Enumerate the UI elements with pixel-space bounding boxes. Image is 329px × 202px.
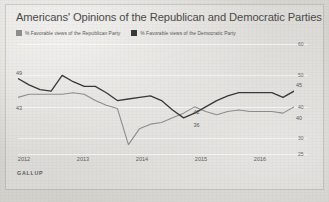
legend-item-democratic: % Favorable views of the Democratic Part… (131, 30, 236, 36)
x-tick-label: 2016 (254, 156, 266, 162)
x-tick-label: 2015 (195, 156, 207, 162)
chart-legend: % Favorable views of the Republican Part… (16, 30, 236, 36)
chart-page: Americans' Opinions of the Republican an… (0, 0, 329, 202)
page-title: Americans' Opinions of the Republican an… (16, 11, 322, 23)
legend-label-democratic: % Favorable views of the Democratic Part… (140, 31, 236, 36)
y-tick-label: 25 (298, 151, 318, 157)
x-tick-label: 2012 (18, 156, 30, 162)
y-tick-label: 50 (298, 72, 318, 78)
x-tick-label: 2013 (77, 156, 89, 162)
y-tick-label: 60 (298, 41, 318, 47)
source-attribution: GALLUP (17, 170, 43, 176)
legend-label-republican: % Favorable views of the Republican Part… (25, 31, 120, 36)
legend-swatch-republican (16, 30, 22, 36)
line-republican (18, 93, 294, 145)
y-tick-label: 40 (298, 104, 318, 110)
x-tick-label: 2014 (136, 156, 148, 162)
data-point-label: 42 (194, 109, 200, 115)
data-point-label: 43 (16, 105, 22, 111)
data-point-label: 40 (296, 115, 302, 121)
series-lines (18, 44, 294, 154)
legend-swatch-democratic (131, 30, 137, 36)
gridline (18, 154, 308, 155)
data-point-label: 36 (194, 122, 200, 128)
y-tick-label: 30 (298, 135, 318, 141)
plot-area: 2530405060 20122013201420152016 49434236… (18, 44, 294, 154)
legend-item-republican: % Favorable views of the Republican Part… (16, 30, 120, 36)
data-point-label: 49 (16, 70, 22, 76)
data-point-label: 45 (296, 82, 302, 88)
